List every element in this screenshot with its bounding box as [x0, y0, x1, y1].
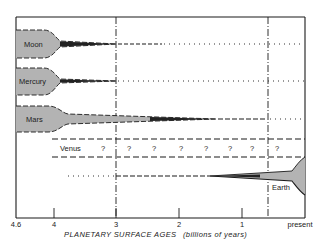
- question-mark: ?: [228, 144, 232, 153]
- question-mark: ?: [275, 144, 279, 153]
- tick-label-4: 4: [52, 220, 56, 229]
- x-axis-tick-labels: 4.6 4 3 2 1 present: [11, 220, 314, 229]
- label-moon: Moon: [24, 40, 43, 49]
- label-mercury: Mercury: [19, 77, 46, 86]
- label-venus: Venus: [60, 144, 81, 153]
- tick-label-present: present: [287, 220, 313, 229]
- question-mark: ?: [204, 144, 208, 153]
- question-mark: ?: [127, 144, 131, 153]
- mercury-band: [16, 68, 304, 95]
- x-axis-ticks: [54, 208, 242, 218]
- x-axis-title-units: (billions of years): [183, 230, 247, 239]
- question-mark: ?: [101, 144, 105, 153]
- planetary-surface-ages-diagram: Moon Mercury Mars Venus Earth ? ? ? ? ? …: [0, 0, 324, 247]
- moon-band: [16, 30, 304, 58]
- x-axis-title: PLANETARY SURFACE AGES (billions of year…: [64, 230, 247, 239]
- tick-label-4.6: 4.6: [11, 220, 21, 229]
- question-mark: ?: [152, 144, 156, 153]
- mars-band: [16, 106, 304, 132]
- x-axis-title-main: PLANETARY SURFACE AGES: [64, 230, 176, 239]
- venus-question-marks: ? ? ? ? ? ? ? ?: [101, 144, 279, 153]
- label-mars: Mars: [26, 115, 43, 124]
- tick-label-3: 3: [114, 220, 118, 229]
- question-mark: ?: [179, 144, 183, 153]
- question-mark: ?: [250, 144, 254, 153]
- earth-band: [68, 157, 305, 195]
- tick-label-2: 2: [177, 220, 181, 229]
- label-earth: Earth: [272, 183, 290, 192]
- tick-label-1: 1: [240, 220, 244, 229]
